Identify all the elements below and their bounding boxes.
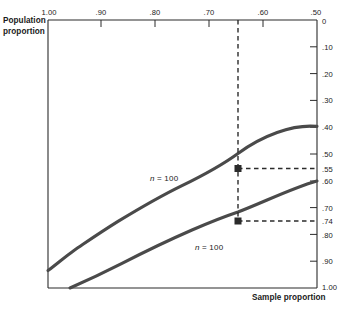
intersection-marker-lower bbox=[235, 218, 242, 225]
y-axis-title-line2: proportion bbox=[3, 27, 46, 38]
y-axis-title: Population proportion bbox=[3, 16, 46, 37]
series-label-upper: n = 100 bbox=[150, 174, 178, 183]
series-label-lower-value: = 100 bbox=[200, 243, 224, 252]
x-axis-title: Sample proportion bbox=[252, 293, 326, 304]
x-tick-label-1-00: 1.00 bbox=[41, 8, 56, 17]
series-label-upper-value: = 100 bbox=[155, 174, 179, 183]
y-tick-label-0: 0 bbox=[322, 17, 326, 26]
y-tick-label-0-70: .70 bbox=[322, 204, 333, 213]
x-tick-label-0-60: .60 bbox=[258, 8, 269, 17]
confidence-band-chart: Population proportion Sample proportion … bbox=[0, 0, 352, 310]
y-tick-label-0-90: .90 bbox=[322, 257, 333, 266]
y-tick-label-0-74: .74 bbox=[322, 217, 333, 226]
y-tick-label-1-00: 1.00 bbox=[322, 283, 337, 292]
intersection-marker-upper bbox=[235, 165, 242, 172]
chart-canvas bbox=[0, 0, 352, 310]
y-tick-label-0-40: .40 bbox=[322, 123, 333, 132]
axes-frame bbox=[48, 20, 317, 288]
right-axis-ticks bbox=[310, 47, 317, 261]
y-tick-label-0-60: .60 bbox=[322, 177, 333, 186]
upper-confidence-curve bbox=[48, 126, 317, 271]
lower-confidence-curve bbox=[70, 181, 317, 288]
x-tick-label-0-80: .80 bbox=[150, 8, 161, 17]
y-axis-title-line1: Population bbox=[3, 16, 46, 27]
x-tick-label-0-50: .50 bbox=[311, 8, 322, 17]
y-tick-label-0-20: .20 bbox=[322, 70, 333, 79]
y-tick-label-0-55: .55 bbox=[322, 164, 333, 173]
y-tick-label-0-50: .50 bbox=[322, 150, 333, 159]
y-tick-label-0-10: .10 bbox=[322, 43, 333, 52]
series-label-lower: n = 100 bbox=[195, 243, 223, 252]
x-tick-label-0-70: .70 bbox=[204, 8, 215, 17]
y-tick-label-0-30: .30 bbox=[322, 96, 333, 105]
x-tick-label-0-90: .90 bbox=[96, 8, 107, 17]
y-tick-label-0-80: .80 bbox=[322, 231, 333, 240]
